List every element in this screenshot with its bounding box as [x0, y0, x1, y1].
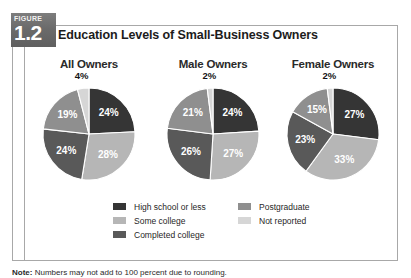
pie-svg: 27%33%23%15%2%	[285, 86, 381, 182]
pie-chart-title: Female Owners	[271, 58, 395, 70]
figure-badge-number: 1.2	[14, 22, 56, 44]
legend-item: Some college	[113, 214, 241, 227]
pie-slice-label: 15%	[307, 104, 327, 115]
chart-legend: High school or lessSome collegeCompleted…	[113, 200, 353, 244]
legend-item-label: Completed college	[134, 230, 204, 240]
figure-note-text: Numbers may not add to 100 percent due t…	[32, 268, 226, 277]
pie-slice-label: 27%	[344, 109, 364, 120]
pie-chart-female-owners: Female Owners 27%33%23%15%2%	[271, 58, 395, 188]
legend-swatch-icon	[113, 231, 126, 238]
legend-column-right: PostgraduateNot reported	[238, 200, 353, 228]
legend-item-label: Postgraduate	[259, 202, 310, 212]
pie-chart-all-owners: All Owners 24%28%24%19%4%	[27, 58, 151, 188]
legend-item-label: Some college	[134, 216, 186, 226]
legend-swatch-icon	[113, 217, 126, 224]
figure-container: FIGURE 1.2 Education Levels of Small-Bus…	[0, 0, 411, 278]
pie-slice-label: 23%	[295, 134, 315, 145]
pie-slice-label: 4%	[75, 70, 89, 81]
legend-item-label: Not reported	[259, 216, 306, 226]
figure-note-prefix: Note:	[12, 268, 32, 277]
legend-item: High school or less	[113, 200, 241, 213]
pie-slice-label: 2%	[203, 70, 217, 81]
pie-slice-label: 28%	[98, 149, 118, 160]
pie-slice-label: 33%	[334, 154, 354, 165]
pie-slice-label: 24%	[99, 107, 119, 118]
legend-swatch-icon	[238, 217, 251, 224]
pie-graphic: 24%28%24%19%4%	[41, 86, 137, 182]
pie-graphic: 24%27%26%21%2%	[165, 86, 261, 182]
legend-item: Not reported	[238, 214, 353, 227]
pie-slice-label: 26%	[181, 146, 201, 157]
pie-slice-label: 21%	[183, 107, 203, 118]
pie-slice-label: 2%	[323, 70, 337, 81]
pie-graphic: 27%33%23%15%2%	[285, 86, 381, 182]
figure-note: Note: Numbers may not add to 100 percent…	[12, 268, 402, 278]
pie-chart-title: Male Owners	[151, 58, 275, 70]
legend-item: Completed college	[113, 228, 241, 241]
pie-svg: 24%27%26%21%2%	[165, 86, 261, 182]
legend-item-label: High school or less	[134, 202, 206, 212]
pie-svg: 24%28%24%19%4%	[41, 86, 137, 182]
figure-title: Education Levels of Small-Business Owner…	[58, 28, 318, 42]
pie-charts-row: All Owners 24%28%24%19%4% Male Owners 24…	[24, 58, 398, 188]
pie-slice-label: 19%	[57, 109, 77, 120]
legend-item: Postgraduate	[238, 200, 353, 213]
pie-chart-male-owners: Male Owners 24%27%26%21%2%	[151, 58, 275, 188]
pie-slice-label: 27%	[223, 148, 243, 159]
legend-swatch-icon	[113, 203, 126, 210]
figure-badge: FIGURE 1.2	[11, 13, 56, 47]
pie-slice-label: 24%	[222, 107, 242, 118]
pie-chart-title: All Owners	[27, 58, 151, 70]
pie-slice-label: 24%	[56, 145, 76, 156]
legend-column-left: High school or lessSome collegeCompleted…	[113, 200, 241, 242]
legend-swatch-icon	[238, 203, 251, 210]
